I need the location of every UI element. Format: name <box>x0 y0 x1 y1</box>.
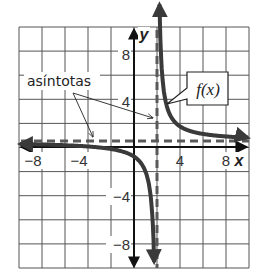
y-tick-label: 4 <box>122 93 130 110</box>
x-tick-label: 4 <box>176 152 184 169</box>
y-axis-label: y <box>139 26 150 43</box>
x-axis-label: x <box>234 152 245 169</box>
y-tick-label: −4 <box>113 188 130 205</box>
x-tick-label: −4 <box>70 152 87 169</box>
asymptote-pointer-vertical <box>73 93 153 118</box>
rational-function-graph: −8 −4 4 8 x 8 4 −4 −8 y asíntotas f(x) <box>0 0 263 275</box>
function-curve-right-branch <box>160 5 248 138</box>
y-tick-label: −8 <box>113 236 130 253</box>
x-tick-label: 8 <box>222 152 230 169</box>
asymptotes-annotation: asíntotas <box>27 73 91 89</box>
y-tick-label: 8 <box>122 46 130 63</box>
x-tick-label: −8 <box>24 152 41 169</box>
function-label: f(x) <box>196 80 220 99</box>
